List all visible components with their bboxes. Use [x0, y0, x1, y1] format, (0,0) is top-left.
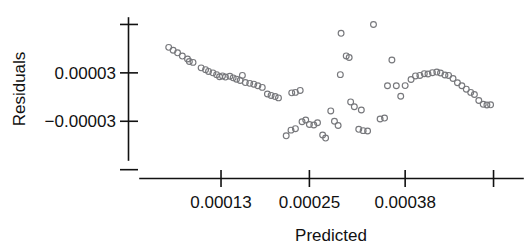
plot-svg: 0.00003−0.00003 0.000130.000250.00038 Pr… — [0, 0, 529, 249]
scatter-point — [393, 83, 399, 89]
scatter-point — [337, 72, 343, 78]
y-axis-tick-label: −0.00003 — [45, 112, 116, 131]
scatter-point — [351, 104, 357, 110]
scatter-point — [328, 108, 334, 114]
x-axis-tick-label: 0.00025 — [279, 193, 340, 212]
y-axis-title: Residuals — [10, 52, 29, 127]
scatter-point — [265, 91, 271, 97]
scatter-point — [283, 133, 289, 139]
x-axis-tick-label: 0.00013 — [190, 193, 251, 212]
scatter-point — [239, 73, 245, 79]
data-points-group — [166, 22, 494, 141]
scatter-point — [402, 83, 408, 89]
x-axis-title: Predicted — [295, 226, 367, 245]
scatter-point — [371, 22, 377, 28]
scatter-point — [268, 93, 274, 99]
scatter-point — [338, 30, 344, 36]
scatter-point — [488, 102, 494, 108]
y-axis-tick-label: 0.00003 — [55, 64, 116, 83]
x-tick-labels-group: 0.000130.000250.00038 — [190, 193, 436, 212]
y-tick-labels-group: 0.00003−0.00003 — [45, 64, 116, 131]
scatter-point — [385, 83, 391, 89]
scatter-point — [398, 93, 404, 99]
scatter-point — [358, 107, 364, 113]
scatter-point — [335, 123, 341, 129]
scatter-point — [389, 57, 395, 63]
scatter-point — [190, 59, 196, 65]
axes-group — [129, 18, 524, 179]
residuals-scatter-figure: 0.00003−0.00003 0.000130.000250.00038 Pr… — [0, 0, 529, 249]
x-axis-tick-label: 0.00038 — [374, 193, 435, 212]
